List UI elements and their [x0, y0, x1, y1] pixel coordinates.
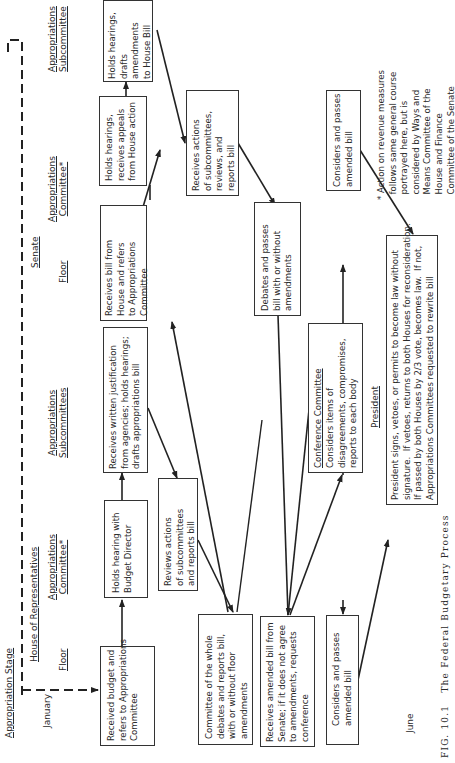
box-senate-committee-hearings: Holds hearings, receives appeals from Ho…	[99, 96, 147, 186]
box-house-floor-receives-budget: Received budget and refers to Appropriat…	[100, 646, 155, 746]
header-house-approp-subcommittees: Appropriations Subcommittees	[47, 388, 69, 458]
box-text: Holds hearings, drafts amendments to Hou…	[107, 12, 153, 79]
box-text: Committee of the whole debates and repor…	[204, 634, 250, 739]
header-house-floor: Floor	[58, 649, 69, 671]
box-senate-subcommittee: Holds hearings, drafts amendments to Hou…	[103, 0, 153, 82]
box-house-considers-passes: Considers and passes amended bill	[326, 615, 359, 745]
box-senate-floor-receives-bill: Receives bill from House and refers to A…	[100, 205, 147, 321]
box-text: Considers and passes amended bill	[331, 633, 354, 726]
box-house-committee-of-whole: Committee of the whole debates and repor…	[198, 614, 253, 745]
box-text: Considers items of disagreements, compro…	[325, 338, 360, 468]
header-appropriation-stage: Appropriation Stage	[4, 648, 15, 738]
header-senate-floor: Floor	[58, 261, 69, 283]
header-june: June	[405, 713, 416, 733]
header-house: House of Representatives	[29, 547, 40, 662]
header-senate-approp-committee: Appropriations Committee*	[47, 156, 69, 222]
box-text: Receives amended bill from Senate; if it…	[265, 622, 311, 742]
footnote: * Action on revenue measures follows sam…	[376, 70, 455, 200]
box-text: Reviews actions of subcommittees and rep…	[163, 509, 198, 586]
box-conference-committee: Conference Committee Considers items of …	[308, 323, 363, 473]
figure-caption: FIG. 10.1 The Federal Budgetary Process	[440, 514, 452, 758]
box-senate-considers-passes: Considers and passes amended bill	[326, 90, 361, 191]
box-text: Receives written justification from agen…	[108, 336, 143, 469]
box-senate-floor-passes: Debates and passes bill with or without …	[254, 202, 301, 316]
header-january: January	[42, 694, 53, 728]
header-president: President	[370, 386, 381, 428]
header-senate-approp-subcommittee: Appropriations Subcommittee	[47, 6, 69, 72]
box-text: Receives actions of subcommittees, revie…	[191, 111, 237, 191]
box-text: Received budget and refers to Appropriat…	[106, 639, 141, 741]
box-text: President signs, vetoes, or permits to b…	[390, 223, 436, 500]
box-text: Holds hearing with Budget Director	[111, 512, 134, 593]
box-house-committee-hearing: Holds hearing with Budget Director	[104, 500, 148, 598]
header-senate: Senate	[30, 236, 41, 268]
box-house-subcommittees: Receives written justification from agen…	[103, 327, 148, 473]
conference-title: Conference Committee	[313, 368, 325, 468]
box-house-committee-reviews: Reviews actions of subcommittees and rep…	[158, 478, 198, 591]
header-house-approp-committee: Appropriations Committee*	[47, 534, 69, 600]
budget-process-flowchart: Appropriation Stage House of Representat…	[0, 0, 455, 763]
box-text: Holds hearings, receives appeals from Ho…	[104, 102, 139, 181]
box-text: Receives bill from House and refers to A…	[104, 240, 150, 316]
box-senate-committee-reviews: Receives actions of subcommittees, revie…	[186, 90, 239, 196]
box-president: President signs, vetoes, or permits to b…	[386, 235, 438, 505]
box-text: Considers and passes amended bill	[332, 94, 355, 187]
box-text: Debates and passes bill with or without …	[260, 224, 295, 311]
box-house-floor-receives-amended: Receives amended bill from Senate; if it…	[260, 616, 315, 747]
